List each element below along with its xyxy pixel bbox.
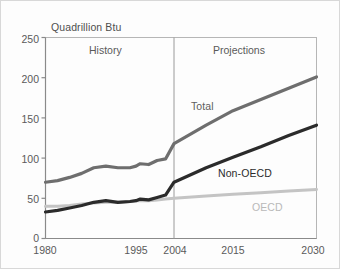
y-tick-label-50: 50: [9, 193, 39, 205]
y-tick-label-0: 0: [9, 232, 39, 244]
x-tick-label-1995: 1995: [116, 244, 156, 256]
series-lines: [46, 77, 317, 212]
plot-area: [1, 1, 340, 269]
history-label: History: [89, 44, 122, 56]
y-tick-label-200: 200: [9, 73, 39, 85]
projections-label: Projections: [213, 44, 265, 56]
y-tick-label-250: 250: [9, 33, 39, 45]
y-tick-label-100: 100: [9, 153, 39, 165]
x-tick-label-2004: 2004: [155, 244, 195, 256]
series-label-total: Total: [191, 100, 214, 112]
chart-figure: Quadrillion Btu 250 200 150 100 50 0 198…: [0, 0, 340, 269]
x-tick-label-2015: 2015: [213, 244, 253, 256]
series-label-oecd: OECD: [252, 201, 283, 213]
series-label-non-oecd: Non-OECD: [218, 167, 272, 179]
x-tick-label-2030: 2030: [293, 244, 333, 256]
x-tick-label-1980: 1980: [25, 244, 65, 256]
y-tick-label-150: 150: [9, 113, 39, 125]
series-line-total: [46, 77, 317, 182]
